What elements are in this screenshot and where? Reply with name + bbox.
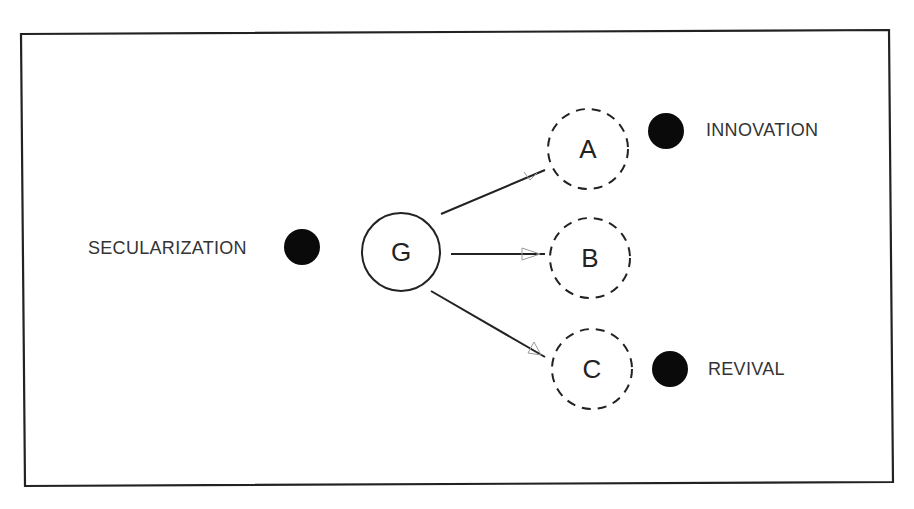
node-c: C (552, 329, 632, 409)
secularization-dot-icon (284, 229, 320, 265)
node-b: B (550, 218, 630, 298)
label-innovation: INNOVATION (648, 113, 818, 149)
diagram-canvas: G A B C SECULARIZATION INNOVATION REVIVA… (0, 0, 914, 509)
node-c-label: C (583, 354, 602, 384)
node-g-label: G (391, 237, 411, 267)
node-a: A (548, 109, 628, 189)
diagram-frame (21, 30, 893, 486)
secularization-text: SECULARIZATION (88, 238, 247, 258)
innovation-dot-icon (648, 113, 684, 149)
node-g: G (362, 213, 440, 291)
node-b-label: B (581, 243, 598, 273)
label-secularization: SECULARIZATION (88, 229, 320, 265)
node-a-label: A (579, 134, 597, 164)
revival-text: REVIVAL (708, 359, 785, 379)
revival-dot-icon (652, 351, 688, 387)
edges (431, 170, 545, 357)
innovation-text: INNOVATION (706, 120, 818, 140)
label-revival: REVIVAL (652, 351, 785, 387)
edge-g-to-a (441, 170, 545, 214)
edge-g-to-c (431, 291, 545, 357)
